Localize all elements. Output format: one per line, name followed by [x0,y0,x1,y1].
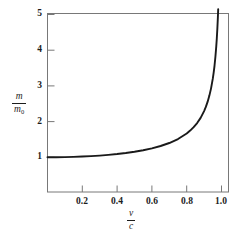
y-tick-label-3: 3 [28,80,42,90]
x-tick-label-1p0: 1.0 [209,196,233,206]
y-axis-label-denominator-base: m [14,104,21,114]
y-tick-label-1: 1 [28,151,42,161]
relativistic-mass-chart: 5 4 3 2 1 0.2 0.4 0.6 0.8 1.0 m m0 v c [0,0,244,238]
y-tick-label-5: 5 [28,8,42,18]
y-axis-label-numerator: m [12,92,26,102]
x-tick-label-0p2: 0.2 [70,196,94,206]
y-tick-label-4: 4 [28,44,42,54]
y-axis-label-denominator: m0 [12,105,26,115]
y-tick-label-2: 2 [28,116,42,126]
x-axis-label: v c [127,209,135,232]
x-tick-label-0p6: 0.6 [140,196,164,206]
x-tick-label-0p4: 0.4 [105,196,129,206]
plot-frame [48,14,229,193]
y-axis-label: m m0 [12,92,26,115]
y-axis-label-denominator-subscript: 0 [21,108,24,115]
x-axis-label-denominator: c [127,222,135,232]
x-tick-label-0p8: 0.8 [175,196,199,206]
x-axis-label-numerator: v [127,209,135,219]
